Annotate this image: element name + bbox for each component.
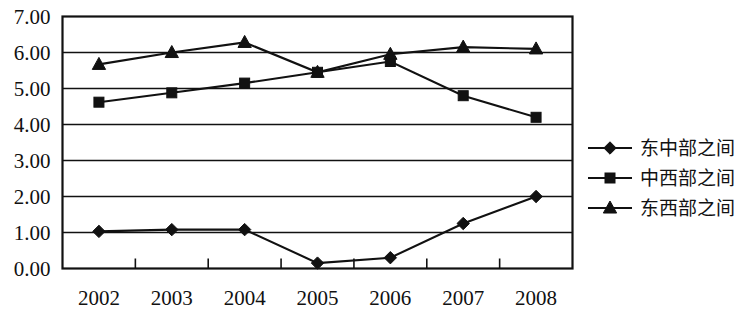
data-point-marker-diamond <box>530 190 542 202</box>
data-point-marker-diamond <box>166 223 178 235</box>
line-chart: 0.001.002.003.004.005.006.007.00 2002200… <box>0 0 745 319</box>
x-axis-tick-label: 2003 <box>151 286 193 310</box>
data-point-marker-diamond <box>384 252 396 264</box>
data-point-marker-triangle <box>457 40 470 52</box>
data-point-marker-square <box>94 97 104 107</box>
data-point-marker-square <box>458 91 468 101</box>
series-1 <box>93 190 543 269</box>
x-axis-tick-label: 2007 <box>442 286 484 310</box>
x-axis-tick-label: 2006 <box>369 286 411 310</box>
y-axis-tick-labels: 0.001.002.003.004.005.006.007.00 <box>14 5 51 281</box>
x-axis-tick-label: 2002 <box>78 286 120 310</box>
data-point-marker-diamond <box>604 142 616 154</box>
x-axis-tick-label: 2008 <box>515 286 557 310</box>
series-line <box>99 197 536 264</box>
y-axis-tick-label: 6.00 <box>14 41 51 65</box>
data-point-marker-diamond <box>93 225 105 237</box>
legend-item-label: 东中部之间 <box>640 138 735 159</box>
legend-item-label: 中西部之间 <box>640 168 735 189</box>
data-point-marker-triangle <box>238 35 251 47</box>
y-axis-tick-label: 4.00 <box>14 113 51 137</box>
data-point-marker-square <box>605 173 615 183</box>
y-axis-tick-label: 0.00 <box>14 257 51 281</box>
data-point-marker-square <box>167 88 177 98</box>
x-axis-tick-label: 2004 <box>224 286 267 310</box>
legend-item-2[interactable]: 中西部之间 <box>588 168 735 189</box>
data-point-marker-diamond <box>457 217 469 229</box>
x-axis-tick-label: 2005 <box>297 286 339 310</box>
legend-item-1[interactable]: 东中部之间 <box>588 138 735 159</box>
y-axis-tick-label: 1.00 <box>14 221 51 245</box>
y-axis-tick-label: 2.00 <box>14 185 51 209</box>
legend-item-label: 东西部之间 <box>640 198 735 219</box>
y-axis-tick-label: 3.00 <box>14 149 51 173</box>
chart-canvas: 0.001.002.003.004.005.006.007.00 2002200… <box>0 0 745 319</box>
data-series <box>92 35 542 269</box>
data-point-marker-diamond <box>238 223 250 235</box>
series-3 <box>92 35 542 77</box>
legend-item-3[interactable]: 东西部之间 <box>588 198 735 219</box>
data-point-marker-square <box>240 78 250 88</box>
x-axis-tick-labels: 2002200320042005200620072008 <box>78 286 557 310</box>
gridlines <box>63 53 573 233</box>
chart-legend: 东中部之间中西部之间东西部之间 <box>588 138 735 219</box>
data-point-marker-square <box>531 112 541 122</box>
y-axis-tick-label: 5.00 <box>14 77 51 101</box>
y-axis-tick-label: 7.00 <box>14 5 51 29</box>
